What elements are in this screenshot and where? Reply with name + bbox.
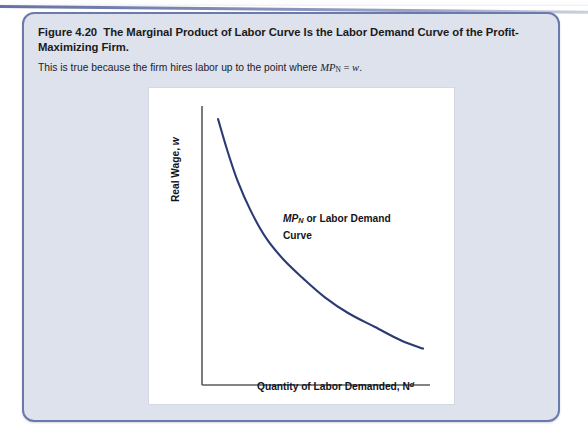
curve-mp-symbol: MP <box>283 213 298 224</box>
chart-svg <box>149 88 454 404</box>
chart-panel: Real Wage, w Quantity of Labor Demanded,… <box>149 88 454 404</box>
w-symbol: w <box>352 62 359 73</box>
figure-number: Figure 4.20 <box>38 26 97 38</box>
curve-annotation-mp: MPN <box>283 213 304 224</box>
figure-subtitle: This is true because the firm hires labo… <box>38 61 543 77</box>
x-axis-label-sup: d <box>410 380 414 389</box>
figure-card: Figure 4.20 The Marginal Product of Labo… <box>22 12 560 422</box>
y-axis-label-prefix: Real Wage, <box>170 145 181 202</box>
figure-subtitle-math-var: MPN <box>320 62 341 73</box>
figure-caption: Figure 4.20 The Marginal Product of Labo… <box>38 25 543 77</box>
figure-subtitle-math-rest: = w. <box>341 62 362 73</box>
curve-annotation-line2: Curve <box>283 230 312 241</box>
y-axis-label: Real Wage, w <box>145 0 159 98</box>
curve-annotation-rest: or Labor Demand <box>304 213 391 224</box>
x-axis-label: Quantity of Labor Demanded, Nd <box>257 380 414 392</box>
x-axis-label-text: Quantity of Labor Demanded, N <box>257 381 410 392</box>
figure-title: Figure 4.20 The Marginal Product of Labo… <box>38 25 543 54</box>
y-axis-label-var: w <box>170 137 181 145</box>
figure-subtitle-prefix: This is true because the firm hires labo… <box>38 62 320 73</box>
curve-annotation: MPN or Labor Demand Curve <box>283 212 407 243</box>
figure-title-text: The Marginal Product of Labor Curve Is t… <box>38 26 519 53</box>
mp-symbol: MP <box>320 62 335 73</box>
